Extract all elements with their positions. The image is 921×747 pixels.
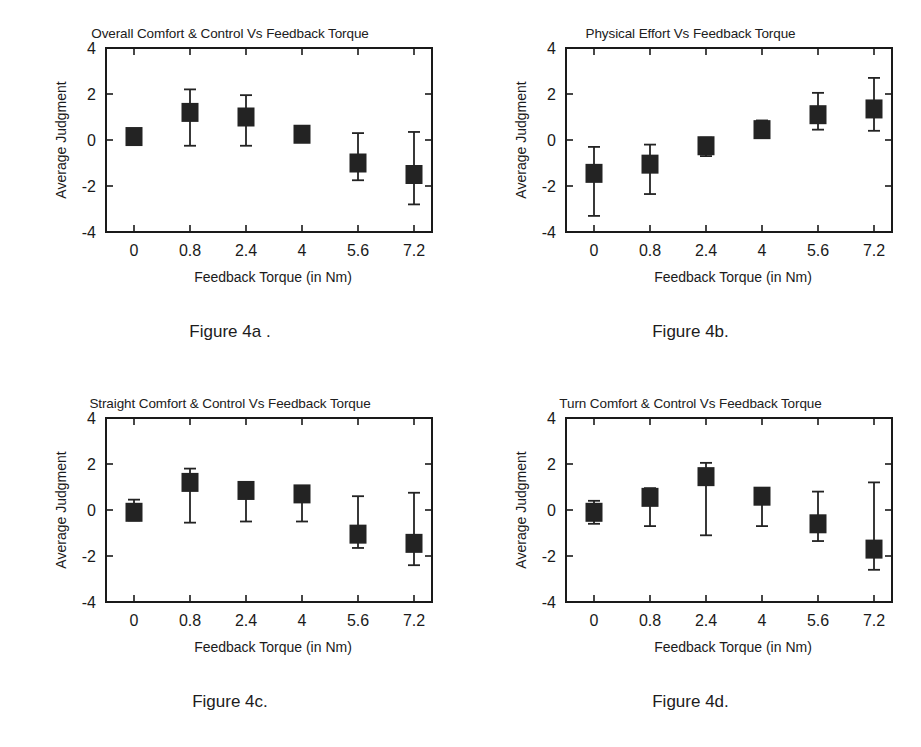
data-point — [406, 493, 423, 565]
chart-svg-4d: 420-2-400.82.445.67.2Feedback Torque (in… — [460, 370, 921, 680]
x-tick-label: 0 — [590, 242, 599, 259]
x-tick-label: 4 — [758, 612, 767, 629]
x-tick-label: 5.6 — [807, 612, 829, 629]
figure-caption-4d: Figure 4d. — [460, 692, 921, 712]
data-point — [866, 482, 883, 569]
x-axis-title: Feedback Torque (in Nm) — [654, 639, 812, 655]
y-axis-title: Average Judgment — [513, 451, 529, 568]
y-tick-label: -2 — [542, 548, 556, 565]
data-point — [182, 89, 199, 145]
data-point — [642, 145, 659, 194]
x-tick-label: 0.8 — [179, 612, 201, 629]
data-point — [586, 147, 603, 216]
x-tick-label: 0 — [130, 612, 139, 629]
x-tick-label: 0.8 — [639, 612, 661, 629]
x-tick-label: 7.2 — [863, 242, 885, 259]
data-point — [642, 488, 659, 526]
y-tick-label: 0 — [547, 132, 556, 149]
x-tick-label: 7.2 — [403, 242, 425, 259]
x-tick-label: 5.6 — [347, 242, 369, 259]
y-tick-label: -4 — [82, 594, 96, 611]
data-point — [126, 127, 143, 146]
x-axis-title: Feedback Torque (in Nm) — [194, 639, 352, 655]
data-point — [406, 132, 423, 204]
x-tick-label: 7.2 — [863, 612, 885, 629]
y-tick-label: 2 — [547, 456, 556, 473]
y-tick-label: 2 — [87, 86, 96, 103]
y-tick-label: 0 — [547, 502, 556, 519]
data-point — [294, 125, 311, 144]
y-tick-label: 4 — [87, 410, 96, 427]
y-tick-label: -2 — [542, 178, 556, 195]
axis-frame — [106, 48, 432, 232]
axis-frame — [566, 418, 892, 602]
figure-caption-4c: Figure 4c. — [0, 692, 460, 712]
y-tick-label: 2 — [547, 86, 556, 103]
data-point — [754, 487, 771, 526]
x-tick-label: 2.4 — [235, 612, 257, 629]
x-tick-label: 0.8 — [639, 242, 661, 259]
data-point — [350, 133, 367, 180]
chart-svg-4b: 420-2-400.82.445.67.2Feedback Torque (in… — [460, 0, 921, 310]
x-tick-label: 0 — [130, 242, 139, 259]
data-point — [698, 136, 715, 156]
data-point — [350, 496, 367, 548]
x-tick-label: 4 — [758, 242, 767, 259]
y-tick-label: -2 — [82, 178, 96, 195]
figure-panel-4b: Physical Effort Vs Feedback Torque 420-2… — [460, 0, 921, 370]
plot-area-4a: 420-2-400.82.445.67.2Feedback Torque (in… — [0, 0, 460, 340]
y-tick-label: 0 — [87, 502, 96, 519]
figure-caption-4a: Figure 4a . — [0, 322, 460, 342]
data-point — [182, 469, 199, 523]
data-point — [698, 463, 715, 535]
x-tick-label: 0 — [590, 612, 599, 629]
y-axis-title: Average Judgment — [53, 81, 69, 198]
y-tick-label: -4 — [542, 594, 556, 611]
x-tick-label: 4 — [298, 612, 307, 629]
x-tick-label: 5.6 — [807, 242, 829, 259]
data-point — [294, 484, 311, 521]
y-tick-label: 0 — [87, 132, 96, 149]
y-tick-label: 2 — [87, 456, 96, 473]
x-axis-title: Feedback Torque (in Nm) — [194, 269, 352, 285]
figure-caption-4b: Figure 4b. — [460, 322, 921, 342]
x-tick-label: 2.4 — [695, 612, 717, 629]
figure-panel-4a: Overall Comfort & Control Vs Feedback To… — [0, 0, 460, 370]
data-point — [754, 120, 771, 139]
plot-area-4d: 420-2-400.82.445.67.2Feedback Torque (in… — [460, 370, 921, 710]
figure-panel-4c: Straight Comfort & Control Vs Feedback T… — [0, 370, 460, 747]
axis-frame — [106, 418, 432, 602]
chart-svg-4c: 420-2-400.82.445.67.2Feedback Torque (in… — [0, 370, 460, 680]
y-axis-title: Average Judgment — [513, 81, 529, 198]
x-tick-label: 0.8 — [179, 242, 201, 259]
y-axis-title: Average Judgment — [53, 451, 69, 568]
chart-svg-4a: 420-2-400.82.445.67.2Feedback Torque (in… — [0, 0, 460, 310]
data-point — [586, 501, 603, 524]
data-point — [126, 500, 143, 522]
data-point — [810, 492, 827, 541]
y-tick-label: 4 — [547, 410, 556, 427]
data-point — [810, 93, 827, 130]
x-tick-label: 5.6 — [347, 612, 369, 629]
y-tick-label: 4 — [87, 40, 96, 57]
data-point — [238, 95, 255, 146]
x-tick-label: 2.4 — [235, 242, 257, 259]
x-axis-title: Feedback Torque (in Nm) — [654, 269, 812, 285]
x-tick-label: 4 — [298, 242, 307, 259]
y-tick-label: -2 — [82, 548, 96, 565]
data-point — [866, 78, 883, 131]
plot-area-4b: 420-2-400.82.445.67.2Feedback Torque (in… — [460, 0, 921, 340]
data-point — [238, 481, 255, 522]
y-tick-label: 4 — [547, 40, 556, 57]
plot-area-4c: 420-2-400.82.445.67.2Feedback Torque (in… — [0, 370, 460, 710]
y-tick-label: -4 — [82, 224, 96, 241]
x-tick-label: 2.4 — [695, 242, 717, 259]
axis-frame — [566, 48, 892, 232]
figure-panel-4d: Turn Comfort & Control Vs Feedback Torqu… — [460, 370, 921, 747]
figure-grid: Overall Comfort & Control Vs Feedback To… — [0, 0, 921, 747]
y-tick-label: -4 — [542, 224, 556, 241]
x-tick-label: 7.2 — [403, 612, 425, 629]
